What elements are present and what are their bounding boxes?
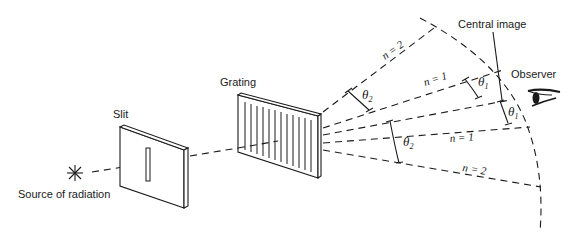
slit-plate	[120, 125, 188, 208]
svg-text:θ2: θ2	[362, 87, 372, 104]
radiation-source-icon	[67, 165, 83, 181]
observer-label: Observer	[511, 68, 557, 80]
eye-icon	[528, 90, 560, 106]
grating-plate	[238, 93, 321, 178]
central-image-label: Central image	[458, 18, 526, 30]
ray-central	[323, 100, 510, 135]
order-label-upper-n2: n = 2	[379, 38, 406, 62]
order-label-upper-n1: n = 1	[422, 69, 448, 88]
slit-label: Slit	[113, 108, 128, 120]
svg-text:θ1: θ1	[478, 74, 488, 91]
slit-to-grating-beam	[190, 148, 238, 156]
central-image-pointer	[493, 32, 502, 100]
order-label-lower-n1: n = 1	[449, 130, 474, 144]
ray-lower-n1	[323, 127, 530, 143]
viewing-arc	[420, 18, 541, 232]
angle-marker-lower-theta1: θ1	[497, 100, 518, 125]
svg-text:θ1: θ1	[508, 104, 518, 121]
angle-marker-lower-theta2: θ2	[386, 120, 413, 163]
angle-marker-upper-theta1: θ1	[462, 74, 488, 99]
source-label: Source of radiation	[18, 188, 110, 200]
angle-marker-upper-theta2: θ2	[345, 87, 373, 112]
grating-label: Grating	[220, 76, 256, 88]
diffraction-grating-diagram: Source of radiation Slit Gra	[0, 0, 585, 234]
ray-upper-n2	[323, 25, 438, 112]
ray-lower-n2	[323, 150, 541, 187]
